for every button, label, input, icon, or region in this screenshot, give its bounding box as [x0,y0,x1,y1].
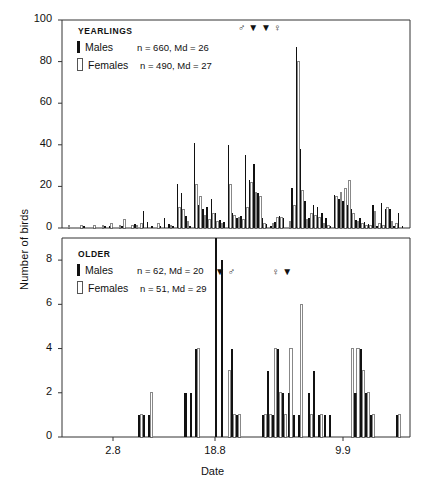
bar-female [264,415,266,437]
bar-male [147,222,149,228]
bar-male [317,207,319,228]
bar-female [276,218,278,228]
bar-female [395,224,397,228]
bar-male [293,415,295,437]
bar-female [391,222,393,228]
bar-female [272,224,274,228]
y-tick-label: 60 [18,95,52,107]
bar-female [378,224,380,228]
y-tick-label: 6 [18,296,52,308]
bar-male [215,238,217,437]
bar-male [365,393,367,437]
y-tick-label: 40 [18,137,52,149]
bar-male [313,205,315,228]
bar-male [267,371,269,437]
bar-female [123,220,125,228]
bar-female [119,226,121,228]
bar-male [402,226,404,228]
bar-male [240,216,242,228]
bar-female [361,224,363,228]
bar-male [300,149,302,228]
bar-female [323,224,325,228]
bar-female [111,224,113,228]
bar-female [247,207,249,228]
bar-female [321,415,323,437]
bar-male [291,188,293,228]
bar-male [298,415,300,437]
bar-male [143,415,145,437]
y-tick-label: 4 [18,341,52,353]
bar-male [221,260,223,437]
bar-male [296,47,298,228]
bar-male [83,226,85,228]
bar-male [321,213,323,228]
bar-male [318,415,320,437]
bar-male [283,218,285,228]
bar-female [293,205,295,228]
bar-male [370,415,372,437]
bar-male [381,203,383,228]
bar-male [198,205,200,228]
bar-female [269,415,271,437]
bar-male [396,415,398,437]
bar-male [143,211,145,228]
y-tick-label: 80 [18,54,52,66]
bar-male [172,226,174,228]
bar-male [168,224,170,228]
bar-female [302,191,304,228]
bar-female [370,226,372,228]
bar-male [354,393,356,437]
bar-female [336,197,338,228]
bar-male [324,415,326,437]
bar-male [372,205,374,228]
bar-female [228,371,230,437]
bar-male [231,349,233,437]
bar-male [206,207,208,228]
bar-female [140,224,142,228]
bar-male [279,216,281,228]
bar-female [281,218,283,228]
bar-male [359,218,361,228]
bar-male [342,201,344,228]
bar-female [349,180,351,228]
bar-male [364,222,366,228]
bar-male [270,226,272,228]
bar-male [134,224,136,228]
bar-female [319,218,321,228]
bar-male [308,218,310,228]
bar-female [280,393,282,437]
bar-female [242,220,244,228]
y-tick-label: 8 [18,252,52,264]
bar-female [289,222,291,228]
bar-male [184,393,186,437]
bar-male [389,209,391,228]
bar-male [236,218,238,228]
bar-male [160,226,162,228]
bar-female [94,226,96,228]
bar-female [251,182,253,228]
x-tick-label: 18.8 [191,444,239,456]
bar-female [306,220,308,228]
bar-female [221,224,223,228]
y-tick-label: 0 [18,220,52,232]
bar-female [367,393,369,437]
bar-female [136,226,138,228]
bar-female [197,349,199,437]
plot-svg [0,0,425,486]
bar-male [177,184,179,228]
bar-female [233,415,235,437]
bar-male [262,218,264,228]
bar-female [383,226,385,228]
bar-male [355,220,357,228]
bar-male [219,220,221,228]
bar-female [102,226,104,228]
bar-female [353,213,355,228]
bar-male [189,226,191,228]
bar-female [204,216,206,228]
bar-male [272,415,274,437]
bar-male [109,226,111,228]
bar-male [313,371,315,437]
bar-female [357,349,359,437]
bar-female [213,213,215,228]
bar-female [357,222,359,228]
